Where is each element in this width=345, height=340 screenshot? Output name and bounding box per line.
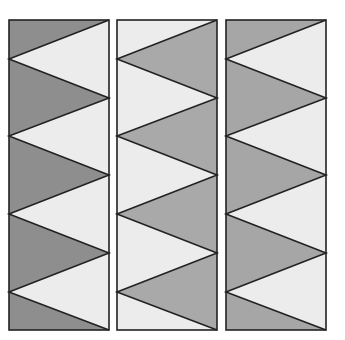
zigzag-diagram <box>0 0 345 340</box>
zigzag-figure <box>0 0 345 340</box>
panel-2 <box>117 20 217 330</box>
panel-3 <box>226 20 326 330</box>
panel-1 <box>9 20 109 330</box>
